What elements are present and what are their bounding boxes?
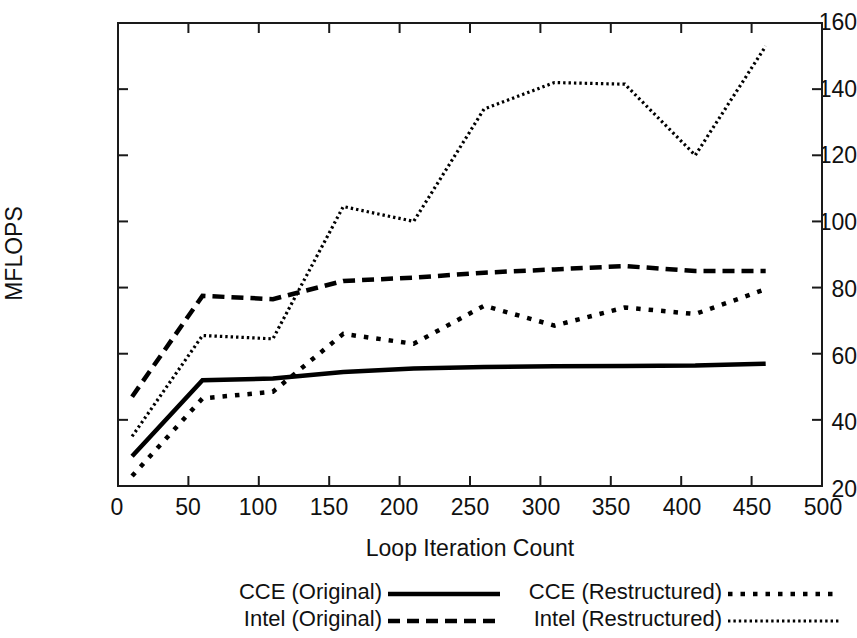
legend-label: Intel (Restructured) [534,605,722,632]
legend-swatch-dotted [728,590,840,595]
plot-frame [117,22,823,487]
legend-swatch-dashed [388,617,500,622]
legend-column-left: CCE (Original) Intel (Original) [180,578,500,632]
x-tick-label: 100 [223,496,293,519]
x-tick-label: 450 [717,496,787,519]
y-axis-title: MFLOPS [1,174,28,334]
x-tick-label: 50 [153,496,223,519]
x-tick-label: 350 [576,496,646,519]
x-tick-label: 150 [294,496,364,519]
legend-item-intel-restructured: Intel (Restructured) [520,605,840,632]
legend-column-right: CCE (Restructured) Intel (Restructured) [520,578,840,632]
x-tick-label: 0 [82,496,152,519]
x-tick-label: 400 [647,496,717,519]
legend-label: CCE (Restructured) [529,578,722,605]
legend-swatch-solid [388,590,500,595]
legend-item-intel-original: Intel (Original) [180,605,500,632]
mflops-line-chart: 160 140 120 100 80 60 40 20 MFLOPS 0 50 … [0,0,857,638]
legend-label: Intel (Original) [244,605,382,632]
legend-label: CCE (Original) [239,578,382,605]
legend-item-cce-restructured: CCE (Restructured) [520,578,840,605]
x-tick-label: 500 [788,496,857,519]
legend-swatch-fine-dotted [728,617,840,622]
legend: CCE (Original) Intel (Original) CCE (Res… [180,578,840,636]
legend-item-cce-original: CCE (Original) [180,578,500,605]
x-tick-label: 300 [506,496,576,519]
x-tick-label: 200 [364,496,434,519]
x-axis-title: Loop Iteration Count [117,535,823,562]
x-tick-label: 250 [435,496,505,519]
